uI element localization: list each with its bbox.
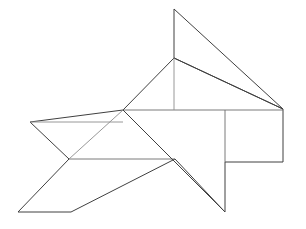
tangram-figure: Tangram line drawing	[0, 0, 306, 229]
drawing-canvas: Tangram line drawing	[0, 0, 306, 229]
top-triangle-sail	[174, 9, 283, 109]
figure-outline-group	[18, 9, 283, 212]
figure-inner-lines-group	[30, 58, 283, 212]
tail-diagonal-line	[123, 110, 225, 212]
notch-diagonal-line	[69, 110, 123, 159]
main-body-outline	[18, 58, 283, 212]
